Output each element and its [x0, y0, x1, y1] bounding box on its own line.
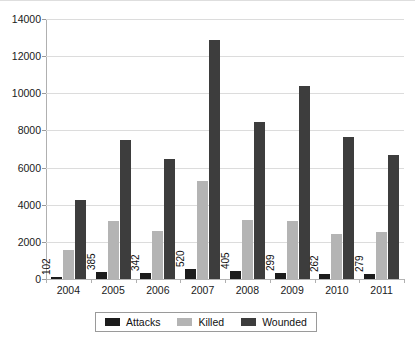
y-tick-label: 8000	[0, 125, 41, 136]
legend-item-killed[interactable]: Killed	[177, 317, 224, 328]
plot-area: 102385342520405299262279	[46, 19, 404, 279]
x-tick-mark	[180, 279, 181, 283]
bar-value-label: 102	[42, 258, 52, 275]
bar-value-label: 299	[266, 255, 276, 272]
bar-group: 385	[91, 19, 136, 279]
bar-value-label: 520	[176, 251, 186, 268]
bar-wounded-2011[interactable]	[388, 155, 399, 279]
bar-killed-2005[interactable]	[108, 221, 119, 279]
x-tick-mark	[359, 279, 360, 283]
bar-attacks-2004[interactable]	[51, 277, 62, 279]
bar-attacks-2008[interactable]	[230, 271, 241, 279]
legend-swatch-killed-icon	[177, 318, 192, 326]
bar-value-label: 279	[355, 255, 365, 272]
legend-item-attacks[interactable]: Attacks	[105, 317, 160, 328]
bar-chart: 02000400060008000100001200014000 1023853…	[0, 0, 415, 338]
x-tick-label-2004: 2004	[46, 285, 91, 297]
x-tick-label-2008: 2008	[225, 285, 270, 297]
legend-swatch-wounded-icon	[241, 318, 256, 326]
bar-value-label: 262	[310, 255, 320, 272]
bar-attacks-2006[interactable]	[140, 273, 151, 279]
x-tick-mark	[91, 279, 92, 283]
bar-wounded-2005[interactable]	[120, 140, 131, 279]
bar-wounded-2010[interactable]	[343, 137, 354, 279]
y-tick-label: 12000	[0, 51, 41, 62]
x-tick-mark	[46, 279, 47, 283]
bar-value-label: 405	[221, 253, 231, 270]
bar-group: 262	[315, 19, 360, 279]
x-tick-label-2009: 2009	[270, 285, 315, 297]
bar-group: 342	[136, 19, 181, 279]
bar-attacks-2009[interactable]	[275, 273, 286, 279]
x-axis-labels: 20042005200620072008200920102011	[46, 285, 404, 301]
bar-wounded-2008[interactable]	[254, 122, 265, 279]
bar-group: 520	[180, 19, 225, 279]
y-tick-label: 2000	[0, 237, 41, 248]
bar-killed-2008[interactable]	[242, 220, 253, 279]
x-tick-mark	[225, 279, 226, 283]
bar-killed-2009[interactable]	[287, 221, 298, 279]
bar-attacks-2011[interactable]	[364, 274, 375, 279]
x-tick-mark	[315, 279, 316, 283]
x-tick-mark	[404, 279, 405, 283]
legend-item-wounded[interactable]: Wounded	[241, 317, 307, 328]
y-tick-label: 14000	[0, 14, 41, 25]
bar-wounded-2004[interactable]	[75, 200, 86, 279]
x-tick-label-2005: 2005	[91, 285, 136, 297]
x-tick-label-2010: 2010	[315, 285, 360, 297]
legend-label: Attacks	[126, 317, 160, 328]
bar-wounded-2006[interactable]	[164, 159, 175, 279]
y-tick-label: 0	[0, 274, 41, 285]
bar-value-label: 342	[131, 254, 141, 271]
bar-group: 405	[225, 19, 270, 279]
bar-attacks-2007[interactable]	[185, 269, 196, 279]
bar-attacks-2005[interactable]	[96, 272, 107, 279]
y-tick-label: 6000	[0, 162, 41, 173]
bar-group: 299	[270, 19, 315, 279]
x-tick-label-2006: 2006	[136, 285, 181, 297]
bar-wounded-2007[interactable]	[209, 40, 220, 279]
bar-killed-2010[interactable]	[331, 234, 342, 280]
bar-killed-2006[interactable]	[152, 231, 163, 279]
bar-killed-2004[interactable]	[63, 250, 74, 279]
legend-label: Killed	[198, 317, 224, 328]
x-tick-mark	[136, 279, 137, 283]
y-tick-label: 4000	[0, 199, 41, 210]
bar-value-label: 385	[87, 253, 97, 270]
legend-label: Wounded	[262, 317, 307, 328]
x-tick-label-2007: 2007	[180, 285, 225, 297]
bar-wounded-2009[interactable]	[299, 86, 310, 279]
chart-legend: AttacksKilledWounded	[95, 312, 317, 332]
y-tick-label: 10000	[0, 88, 41, 99]
bar-attacks-2010[interactable]	[319, 274, 330, 279]
x-tick-mark	[270, 279, 271, 283]
legend-swatch-attacks-icon	[105, 318, 120, 326]
bar-killed-2007[interactable]	[197, 181, 208, 279]
bar-group: 279	[359, 19, 404, 279]
bar-killed-2011[interactable]	[376, 232, 387, 279]
bar-group: 102	[46, 19, 91, 279]
x-tick-label-2011: 2011	[359, 285, 404, 297]
